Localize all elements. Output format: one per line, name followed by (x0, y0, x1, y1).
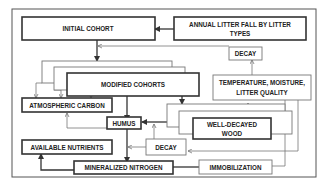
humus-box: HUMUS (107, 117, 141, 129)
immobilization-box: IMMOBILIZATION (199, 160, 272, 174)
temperature-moisture-box: TEMPERATURE, MOISTURE, LITTER QUALITY (213, 75, 311, 100)
modified-cohorts-label: MODIFIED COHORTS (101, 81, 165, 88)
temperature-label-line2: LITTER QUALITY (236, 89, 288, 97)
temperature-label-line1: TEMPERATURE, MOISTURE, (219, 79, 305, 87)
mineralized-nitrogen-label: MINERALIZED NITROGEN (84, 164, 162, 171)
humus-label: HUMUS (112, 120, 135, 127)
initial-cohort-label: INITIAL COHORT (63, 25, 114, 32)
mineralized-nitrogen-box: MINERALIZED NITROGEN (74, 161, 173, 174)
annual-litter-fall-box: ANNUAL LITTER FALL BY LITTER TYPES (174, 17, 306, 40)
wood-label-line2: WOOD (222, 130, 243, 137)
immobilization-label: IMMOBILIZATION (210, 164, 262, 171)
atmospheric-carbon-label: ATMOSPHERIC CARBON (29, 102, 105, 109)
decay-bottom-label: DECAY (155, 144, 177, 151)
available-nutrients-box: AVAILABLE NUTRIENTS (22, 140, 112, 154)
initial-cohort-box: INITIAL COHORT (22, 17, 155, 40)
decay-top-label: DECAY (235, 50, 257, 57)
annual-litter-fall-label-line1: ANNUAL LITTER FALL BY LITTER (189, 21, 291, 28)
well-decayed-wood-stack: WELL-DECAYED WOOD (167, 104, 292, 139)
decay-bottom-box: DECAY (146, 139, 186, 155)
atmospheric-carbon-box: ATMOSPHERIC CARBON (22, 98, 112, 112)
available-nutrients-label: AVAILABLE NUTRIENTS (31, 144, 104, 151)
wood-label-line1: WELL-DECAYED (207, 121, 258, 128)
nutrient-cycle-diagram: INITIAL COHORT ANNUAL LITTER FALL BY LIT… (0, 0, 323, 193)
decay-top-box: DECAY (229, 47, 262, 60)
annual-litter-fall-label-line2: TYPES (230, 30, 251, 37)
